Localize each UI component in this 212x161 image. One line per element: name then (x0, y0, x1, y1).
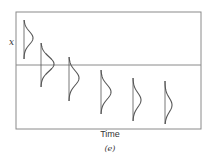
distribution-curve (133, 78, 141, 121)
plot-frame (16, 12, 201, 129)
distribution-curve (165, 81, 172, 124)
figure-caption: (e) (0, 144, 212, 153)
distribution-curve (101, 70, 111, 114)
x-axis-label: Time (0, 129, 212, 139)
y-axis-label: x (9, 37, 14, 47)
distribution-curve (24, 20, 33, 59)
distribution-curve (69, 57, 79, 101)
